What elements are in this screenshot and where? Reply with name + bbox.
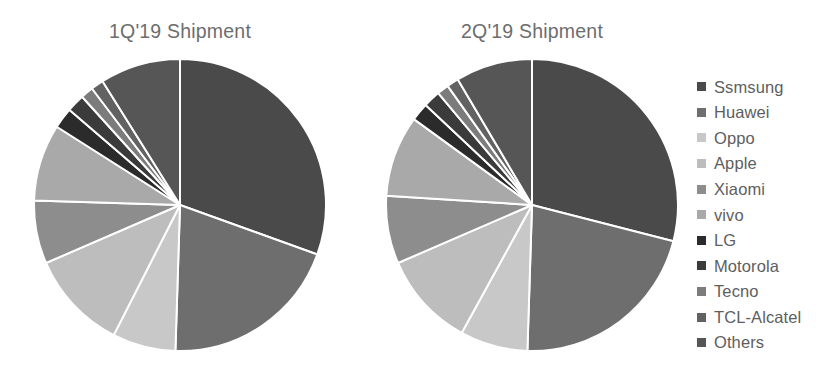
chart-title-2q19: 2Q'19 Shipment — [352, 20, 712, 43]
legend-item-label: Oppo — [714, 130, 755, 147]
legend-swatch-icon — [697, 236, 706, 245]
legend-swatch-icon — [697, 108, 706, 117]
pie-slices-2q19 — [386, 59, 678, 351]
legend-swatch-icon — [697, 82, 706, 91]
pie-chart-1q19 — [33, 58, 327, 352]
legend-item-label: TCL-Alcatel — [714, 309, 801, 326]
legend-item-label: Xiaomi — [714, 181, 765, 198]
legend-item-label: Tecno — [714, 283, 759, 300]
pie-svg-2q19 — [385, 58, 679, 352]
legend-swatch-icon — [697, 210, 706, 219]
pie-svg-1q19 — [33, 58, 327, 352]
legend-item-label: Ssmsung — [714, 79, 783, 96]
pie-slices-1q19 — [34, 59, 326, 351]
legend-item[interactable]: Apple — [697, 151, 836, 177]
legend-item[interactable]: LG — [697, 228, 836, 254]
legend-item-label: Motorola — [714, 258, 779, 275]
legend-item[interactable]: TCL-Alcatel — [697, 304, 836, 330]
chart-panel-1q19: 1Q'19 Shipment — [0, 0, 360, 387]
legend-item-label: Huawei — [714, 104, 770, 121]
chart-legend: SsmsungHuaweiOppoAppleXiaomivivoLGMotoro… — [697, 74, 836, 356]
chart-panel-2q19: 2Q'19 Shipment — [352, 0, 712, 387]
figure-canvas: 1Q'19 Shipment 2Q'19 Shipment SsmsungHua… — [0, 0, 836, 387]
legend-swatch-icon — [697, 287, 706, 296]
legend-item-label: LG — [714, 232, 736, 249]
legend-item-label: vivo — [714, 207, 744, 224]
legend-item-label: Others — [714, 334, 764, 351]
legend-swatch-icon — [697, 185, 706, 194]
chart-title-1q19: 1Q'19 Shipment — [0, 20, 360, 43]
legend-item[interactable]: vivo — [697, 202, 836, 228]
legend-swatch-icon — [697, 133, 706, 142]
pie-chart-2q19 — [385, 58, 679, 352]
legend-item[interactable]: Motorola — [697, 253, 836, 279]
legend-item[interactable]: Others — [697, 330, 836, 356]
legend-swatch-icon — [697, 159, 706, 168]
legend-item[interactable]: Oppo — [697, 125, 836, 151]
legend-item[interactable]: Xiaomi — [697, 176, 836, 202]
legend-swatch-icon — [697, 313, 706, 322]
legend-item[interactable]: Tecno — [697, 279, 836, 305]
legend-swatch-icon — [697, 338, 706, 347]
legend-item[interactable]: Huawei — [697, 100, 836, 126]
legend-item-label: Apple — [714, 155, 757, 172]
legend-swatch-icon — [697, 261, 706, 270]
legend-item[interactable]: Ssmsung — [697, 74, 836, 100]
